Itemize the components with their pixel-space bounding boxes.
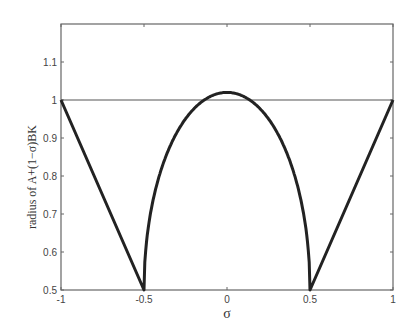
plot-frame <box>61 24 393 290</box>
y-tick-label: 0.6 <box>43 247 57 258</box>
x-tick-label: 0 <box>224 294 230 305</box>
x-axis-label: σ <box>223 306 231 321</box>
x-tick-label: 0.5 <box>303 294 317 305</box>
y-tick-label: 0.5 <box>43 285 57 296</box>
radius-curve <box>61 92 393 290</box>
x-tick-label: -0.5 <box>135 294 153 305</box>
y-tick-label: 0.7 <box>43 209 57 220</box>
y-tick-label: 0.9 <box>43 133 57 144</box>
x-tick-label: 1 <box>390 294 396 305</box>
y-axis-label: radius of A+(1−σ)BK <box>25 125 39 229</box>
y-tick-label: 1 <box>51 95 57 106</box>
x-tick-label: -1 <box>57 294 66 305</box>
y-tick-label: 1.1 <box>43 57 57 68</box>
y-tick-label: 0.8 <box>43 171 57 182</box>
chart-canvas: -1-0.500.510.50.60.70.80.911.1σradius of… <box>0 0 414 334</box>
